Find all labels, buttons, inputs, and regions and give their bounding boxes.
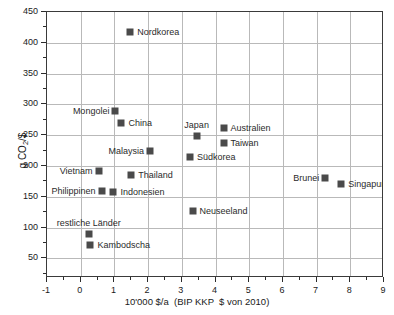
y-tick-major	[41, 103, 46, 104]
x-tick-minor	[63, 277, 64, 280]
data-point-marker[interactable]	[322, 175, 329, 182]
x-tick-minor	[130, 277, 131, 280]
data-point-label: China	[128, 118, 152, 127]
gridline-vertical	[114, 12, 115, 276]
y-axis-title: g CO2/$	[17, 106, 30, 196]
x-tick-label: 0	[77, 286, 82, 295]
data-point-marker[interactable]	[338, 180, 345, 187]
x-tick-label: 7	[313, 286, 318, 295]
data-point-marker[interactable]	[95, 168, 102, 175]
gridline-vertical	[283, 12, 284, 276]
gridline-vertical	[317, 12, 318, 276]
x-tick-major	[316, 277, 317, 282]
gridline-horizontal	[47, 43, 382, 44]
y-tick-minor	[43, 150, 46, 151]
y-tick-minor	[43, 119, 46, 120]
x-tick-minor	[332, 277, 333, 280]
x-tick-minor	[231, 277, 232, 280]
x-axis-title: 10'000 $/a (BIP KKP $ von 2010)	[0, 296, 394, 307]
y-tick-major	[41, 42, 46, 43]
data-point-marker[interactable]	[220, 140, 227, 147]
x-tick-label: -1	[42, 286, 50, 295]
x-tick-label: 3	[178, 286, 183, 295]
data-point-marker[interactable]	[98, 188, 105, 195]
y-tick-minor	[43, 273, 46, 274]
data-point-label: Brunei	[293, 174, 319, 183]
x-tick-label: 9	[380, 286, 385, 295]
y-axis-title-tail: /$	[17, 133, 28, 141]
data-point-label: Singapur	[348, 179, 383, 188]
x-tick-label: 4	[212, 286, 217, 295]
data-point-label: Nordkorea	[137, 27, 179, 36]
data-point-label: Neuseeland	[200, 206, 248, 215]
gridline-horizontal	[47, 135, 382, 136]
gridline-horizontal	[47, 228, 382, 229]
gridline-vertical	[350, 12, 351, 276]
gridline-vertical	[216, 12, 217, 276]
data-point-label: Malaysia	[109, 147, 145, 156]
y-tick-minor	[43, 88, 46, 89]
gridline-horizontal	[47, 258, 382, 259]
data-point-label: Mongolei	[73, 106, 110, 115]
data-point-marker[interactable]	[112, 107, 119, 114]
x-tick-major	[147, 277, 148, 282]
y-tick-minor	[43, 26, 46, 27]
x-tick-major	[282, 277, 283, 282]
y-tick-label: 350	[4, 68, 38, 77]
y-axis-title-main: g CO	[17, 145, 28, 168]
x-tick-minor	[299, 277, 300, 280]
x-tick-major	[349, 277, 350, 282]
x-tick-major	[80, 277, 81, 282]
data-point-label: Japan	[184, 121, 209, 130]
data-point-marker[interactable]	[128, 171, 135, 178]
x-tick-label: 1	[111, 286, 116, 295]
data-point-marker[interactable]	[147, 148, 154, 155]
y-tick-minor	[43, 57, 46, 58]
data-point-label: Taiwan	[231, 139, 259, 148]
x-tick-label: 8	[347, 286, 352, 295]
data-point-label: Indonesien	[120, 188, 164, 197]
x-tick-label: 2	[145, 286, 150, 295]
data-point-marker[interactable]	[118, 119, 125, 126]
x-tick-major	[215, 277, 216, 282]
y-tick-label: 450	[4, 7, 38, 16]
x-tick-major	[46, 277, 47, 282]
data-point-marker[interactable]	[87, 242, 94, 249]
x-tick-major	[248, 277, 249, 282]
y-tick-label: 50	[4, 253, 38, 262]
data-point-label: Südkorea	[197, 153, 236, 162]
gridline-vertical	[81, 12, 82, 276]
x-tick-minor	[366, 277, 367, 280]
data-point-label: Kambodscha	[97, 241, 150, 250]
y-tick-label: 400	[4, 37, 38, 46]
x-tick-minor	[164, 277, 165, 280]
plot-area: NordkoreaMongoleiChinaJapanAustralienTai…	[46, 11, 383, 277]
data-point-marker[interactable]	[110, 189, 117, 196]
x-tick-minor	[265, 277, 266, 280]
data-point-marker[interactable]	[189, 207, 196, 214]
data-point-marker[interactable]	[127, 28, 134, 35]
y-tick-minor	[43, 211, 46, 212]
gridline-horizontal	[47, 166, 382, 167]
y-axis-title-subscript: 2	[21, 141, 30, 145]
y-tick-minor	[43, 180, 46, 181]
data-point-label: Australien	[231, 123, 271, 132]
data-point-marker[interactable]	[186, 154, 193, 161]
x-tick-label: 6	[279, 286, 284, 295]
gridline-horizontal	[47, 197, 382, 198]
data-point-marker[interactable]	[193, 133, 200, 140]
gridline-vertical	[148, 12, 149, 276]
data-point-marker[interactable]	[220, 124, 227, 131]
data-point-label: Philippinen	[52, 187, 96, 196]
data-point-label: restliche Länder	[57, 219, 121, 228]
y-tick-major	[41, 196, 46, 197]
data-point-label: Thailand	[138, 170, 173, 179]
y-tick-label: 100	[4, 222, 38, 231]
x-tick-minor	[198, 277, 199, 280]
data-point-marker[interactable]	[85, 230, 92, 237]
y-tick-major	[41, 134, 46, 135]
y-tick-major	[41, 11, 46, 12]
x-tick-minor	[97, 277, 98, 280]
gridline-horizontal	[47, 74, 382, 75]
co2-intensity-scatter-chart: NordkoreaMongoleiChinaJapanAustralienTai…	[0, 0, 394, 315]
